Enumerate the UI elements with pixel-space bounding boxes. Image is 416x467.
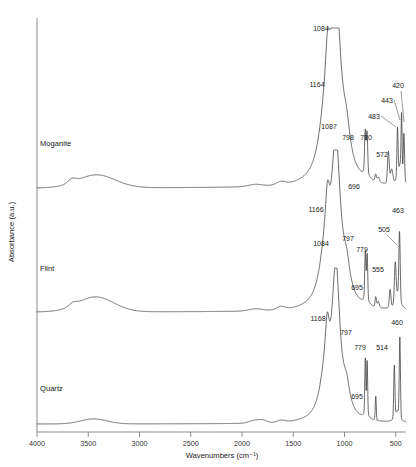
peak-annotations: 1084116410877987806965724834434201166108… — [308, 25, 403, 400]
x-tick-label-3500: 3500 — [80, 439, 96, 448]
peak-label-1164-1: 1164 — [309, 81, 324, 88]
sample-label-quartz: Quartz — [40, 384, 63, 393]
x-axis-tick-labels: 4000350030002500200015001000500 — [29, 439, 402, 448]
x-tick-label-4000: 4000 — [29, 439, 45, 448]
peak-label-780-4: 780 — [360, 134, 372, 141]
x-tick-label-1500: 1500 — [285, 439, 301, 448]
peak-leader-443 — [394, 100, 400, 120]
peak-label-1166-10: 1166 — [308, 206, 323, 213]
peak-leader-483 — [381, 116, 396, 127]
peak-label-483-7: 483 — [368, 113, 380, 120]
peak-label-1168-18: 1168 — [310, 315, 325, 322]
peak-label-1087-2: 1087 — [321, 123, 337, 130]
x-tick-label-3000: 3000 — [132, 439, 148, 448]
sample-label-flint: Flint — [40, 264, 55, 273]
peak-label-797-12: 797 — [342, 235, 354, 242]
peak-label-514-21: 514 — [376, 344, 388, 351]
peak-label-798-3: 798 — [342, 134, 354, 141]
x-axis-ticks — [37, 432, 396, 437]
peak-label-572-6: 572 — [376, 151, 388, 158]
peak-label-460-23: 460 — [391, 319, 403, 326]
peak-label-463-17: 463 — [392, 207, 404, 214]
sample-label-moganite: Moganite — [40, 139, 71, 148]
peak-label-695-22: 695 — [351, 393, 363, 400]
peak-label-695-14: 695 — [351, 284, 363, 291]
x-axis-label: Wavenumbers (cm⁻¹) — [186, 451, 259, 460]
spectrum-trace-moganite — [37, 28, 406, 188]
ftir-spectra-figure: 4000350030002500200015001000500 Wavenumb… — [0, 0, 416, 467]
spectra-plot: 4000350030002500200015001000500 Wavenumb… — [0, 0, 416, 467]
peak-label-1084-11: 1084 — [313, 240, 329, 247]
spectrum-trace-quartz — [37, 268, 406, 424]
peak-label-779-20: 779 — [354, 344, 366, 351]
peak-label-443-8: 443 — [381, 97, 393, 104]
peak-label-420-9: 420 — [392, 82, 404, 89]
peak-label-696-5: 696 — [348, 183, 360, 190]
peak-leader-lines — [381, 91, 404, 245]
x-tick-label-500: 500 — [390, 439, 402, 448]
peak-label-555-15: 555 — [372, 266, 384, 273]
y-axis-label: Absorbance (a.u.) — [7, 201, 16, 262]
peak-label-797-19: 797 — [340, 329, 352, 336]
x-tick-label-2000: 2000 — [234, 439, 250, 448]
peak-leader-505 — [387, 235, 397, 245]
x-tick-label-2500: 2500 — [183, 439, 199, 448]
x-tick-label-1000: 1000 — [337, 439, 353, 448]
peak-label-505-16: 505 — [378, 226, 390, 233]
peak-label-779-13: 779 — [356, 246, 368, 253]
peak-label-1084-0: 1084 — [313, 25, 329, 32]
